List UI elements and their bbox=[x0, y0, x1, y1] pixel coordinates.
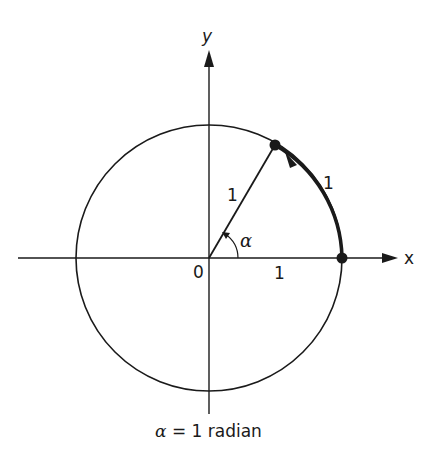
origin-label: 0 bbox=[193, 262, 204, 282]
arc-label: 1 bbox=[323, 173, 334, 193]
x-axis-label: x bbox=[404, 248, 414, 268]
caption: α = 1 radian bbox=[155, 421, 262, 441]
angle-arc bbox=[225, 234, 238, 258]
caption-text: = 1 radian bbox=[166, 421, 261, 441]
y-axis-arrow-icon bbox=[204, 50, 214, 67]
point-arc-start bbox=[337, 253, 348, 264]
unit-circle-diagram: x y α 0 1 1 1 α = 1 radian bbox=[0, 0, 434, 463]
angle-label: α bbox=[240, 230, 252, 251]
point-arc-end bbox=[270, 140, 281, 151]
radius-label: 1 bbox=[227, 185, 238, 205]
caption-symbol: α bbox=[155, 421, 167, 441]
x-axis-arrow-icon bbox=[382, 253, 398, 263]
angle-arrow-icon bbox=[222, 232, 230, 239]
x-unit-label: 1 bbox=[274, 263, 285, 283]
y-axis-label: y bbox=[201, 26, 213, 46]
arc-one-radian bbox=[275, 145, 342, 258]
